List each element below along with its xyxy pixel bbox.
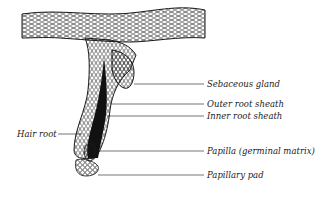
epidermis-layer xyxy=(22,8,205,42)
label-papillary-pad: Papillary pad xyxy=(207,170,264,180)
label-hair-root: Hair root xyxy=(17,129,57,139)
papillary-pad-shape xyxy=(75,159,98,176)
label-papilla: Papilla (germinal matrix) xyxy=(207,146,315,156)
label-sebaceous-gland: Sebaceous gland xyxy=(207,79,280,89)
label-outer-root-sheath: Outer root sheath xyxy=(207,99,284,109)
papilla-shape xyxy=(84,143,96,161)
label-inner-root-sheath: Inner root sheath xyxy=(207,111,282,121)
